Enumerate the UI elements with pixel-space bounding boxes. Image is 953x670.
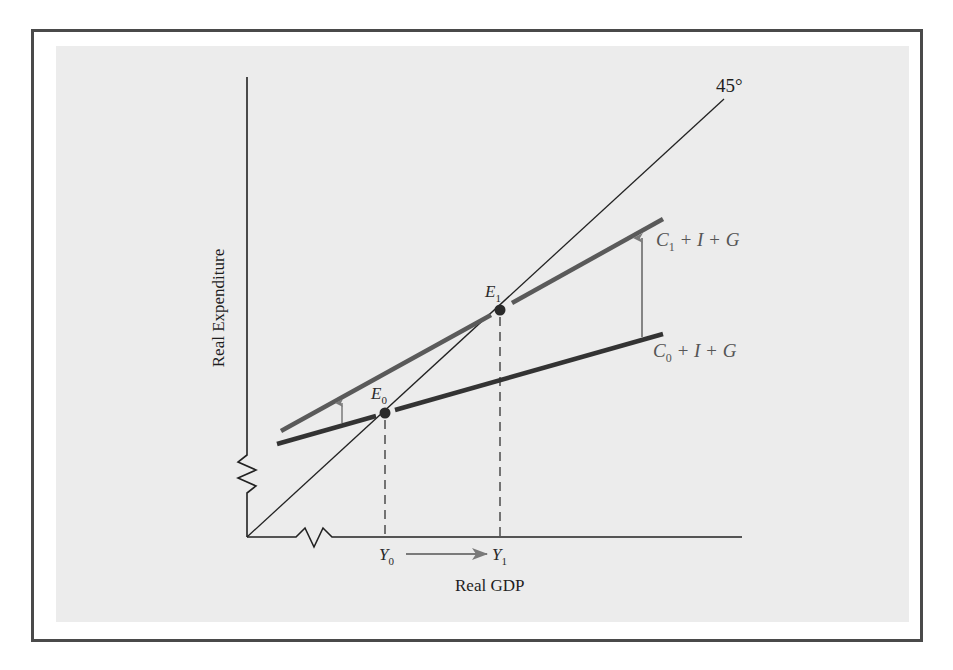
c1-label: C1 + I + G (656, 229, 740, 254)
c0-label: C0 + I + G (653, 340, 737, 365)
keynesian-cross-diagram: 45° C1 + I + G C0 + I + G E0 E1 Y0 Y1 Re… (0, 0, 953, 670)
e0-label: E0 (370, 384, 387, 406)
e1-point (495, 305, 506, 316)
y-axis (238, 77, 256, 537)
x-axis-title: Real GDP (455, 576, 524, 595)
c0-line-left (277, 416, 376, 444)
y-axis-title: Real Expenditure (209, 249, 228, 368)
angle-label: 45° (716, 75, 743, 96)
y0-label: Y0 (379, 545, 394, 567)
e0-point (380, 408, 391, 419)
y1-label: Y1 (492, 545, 507, 567)
e1-label: E1 (484, 282, 501, 304)
c1-line-right (512, 219, 663, 303)
